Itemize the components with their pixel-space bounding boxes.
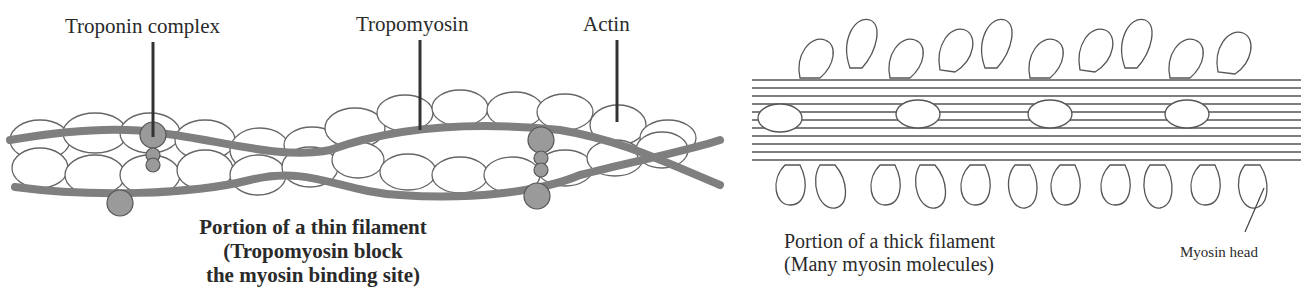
thin-caption-line-1: Portion of a thin filament <box>178 215 448 239</box>
thin-filament-caption: Portion of a thin filament (Tropomyosin … <box>178 215 448 287</box>
thick-filament-diagram: Portion of a thick filament (Many myosin… <box>740 0 1301 295</box>
thin-filament-diagram: Troponin complex Tropomyosin Actin Porti… <box>0 0 740 295</box>
thick-caption-line-2: (Many myosin molecules) <box>784 253 995 276</box>
tropomyosin-label: Tropomyosin <box>356 12 468 37</box>
thick-caption-line-1: Portion of a thick filament <box>784 230 995 253</box>
actin-label: Actin <box>583 12 630 37</box>
myosin-head-label: Myosin head <box>1180 244 1258 261</box>
thin-caption-line-2: (Tropomyosin block <box>178 239 448 263</box>
thin-caption-line-3: the myosin binding site) <box>178 263 448 287</box>
thick-filament-caption: Portion of a thick filament (Many myosin… <box>784 230 995 276</box>
troponin-complex-label: Troponin complex <box>65 14 220 39</box>
